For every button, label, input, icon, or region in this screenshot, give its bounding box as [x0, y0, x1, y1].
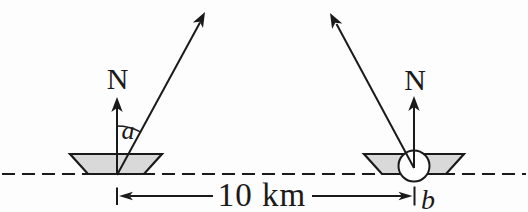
left-north-label: N: [107, 62, 129, 95]
distance-label: 10 km: [218, 177, 306, 212]
left-angle-label: a: [122, 116, 135, 145]
bearing-diagram-figure: N a N b 10 km: [0, 0, 528, 212]
bearing-diagram-canvas: N a N b 10 km: [0, 0, 528, 212]
right-bearing-arrowhead-icon: [330, 13, 342, 29]
right-angle-label: b: [421, 184, 435, 212]
left-bearing-arrow-line: [117, 23, 200, 176]
right-north-label: N: [404, 63, 426, 96]
right-bearing-arrow-line: [337, 24, 415, 168]
